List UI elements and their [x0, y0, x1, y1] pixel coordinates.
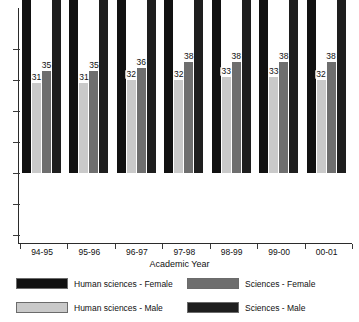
bar: 62	[289, 0, 298, 173]
x-axis-label: 97-98	[173, 247, 195, 257]
y-axis-tick	[13, 111, 20, 112]
bar-group: 67333862	[212, 0, 252, 173]
bar-group: 68323862	[164, 0, 204, 173]
legend-label: Sciences - Female	[245, 279, 315, 289]
x-axis-tick	[352, 244, 353, 249]
bar-value-label: 32	[315, 70, 326, 79]
bar: 38	[327, 62, 336, 173]
bar-group: 68323862	[307, 0, 347, 173]
bar: 36	[137, 68, 146, 173]
bar-value-label: 33	[268, 67, 279, 76]
bar: 68	[307, 0, 316, 173]
bar-value-label: 33	[220, 67, 231, 76]
y-axis-tick	[13, 235, 20, 236]
bar-group: 67333862	[259, 0, 299, 173]
y-axis-tick	[13, 80, 20, 81]
x-axis-tick	[257, 244, 258, 249]
plot-area: 6931356569313565683236646832386267333862…	[0, 0, 359, 252]
x-axis-label: 00-01	[316, 247, 338, 257]
bar-value-label: 35	[41, 61, 52, 70]
legend-label: Human sciences - Male	[74, 303, 163, 313]
y-axis-tick	[13, 142, 20, 143]
bar-group: 69313565	[22, 0, 62, 173]
x-axis-label: 95-96	[79, 247, 101, 257]
y-axis-tick	[13, 49, 20, 50]
legend-item-human-sciences-female: Human sciences - Female	[16, 278, 173, 289]
x-axis-label: 99-00	[268, 247, 290, 257]
bar: 65	[99, 0, 108, 173]
bar: 62	[337, 0, 346, 173]
bar: 62	[242, 0, 251, 173]
bar: 33	[269, 77, 278, 173]
bar-value-label: 32	[126, 70, 137, 79]
bar: 64	[147, 0, 156, 173]
bar: 69	[69, 0, 78, 173]
bar: 62	[194, 0, 203, 173]
legend-label: Sciences - Male	[245, 303, 305, 313]
bar: 68	[117, 0, 126, 173]
bar: 68	[164, 0, 173, 173]
legend-swatch	[187, 302, 239, 313]
bar: 35	[89, 71, 98, 173]
bar: 31	[79, 83, 88, 173]
bar: 67	[212, 0, 221, 173]
bar-value-label: 31	[78, 73, 89, 82]
bar: 32	[174, 80, 183, 173]
legend-swatch	[187, 278, 239, 289]
x-axis-label: 98-99	[221, 247, 243, 257]
bar: 65	[52, 0, 61, 173]
bar: 33	[222, 77, 231, 173]
legend-swatch	[16, 302, 68, 313]
bar: 69	[22, 0, 31, 173]
x-axis-title: Academic Year	[0, 259, 359, 270]
bar: 35	[42, 71, 51, 173]
x-axis-tick	[67, 244, 68, 249]
bar-value-label: 38	[230, 52, 241, 61]
bar-value-label: 35	[88, 61, 99, 70]
x-axis-tick	[305, 244, 306, 249]
legend-item-sciences-male: Sciences - Male	[187, 302, 305, 313]
bar-value-label: 38	[278, 52, 289, 61]
bar-value-label: 38	[325, 52, 336, 61]
bar: 38	[184, 62, 193, 173]
legend-label: Human sciences - Female	[74, 279, 173, 289]
bar-value-label: 32	[173, 70, 184, 79]
legend-item-sciences-female: Sciences - Female	[187, 278, 315, 289]
y-axis-line	[18, 8, 19, 244]
bar-value-label: 38	[183, 52, 194, 61]
x-axis-tick	[20, 244, 21, 249]
bar-group: 69313565	[69, 0, 109, 173]
y-axis-tick	[13, 204, 20, 205]
bar: 32	[127, 80, 136, 173]
bar: 32	[317, 80, 326, 173]
bar-value-label: 36	[136, 58, 147, 67]
bar-group: 68323664	[117, 0, 157, 173]
legend-item-human-sciences-male: Human sciences - Male	[16, 302, 163, 313]
x-axis-label: 96-97	[126, 247, 148, 257]
grouped-bar-chart: 6931356569313565683236646832386267333862…	[0, 0, 359, 322]
x-axis-label: 94-95	[31, 247, 53, 257]
y-axis-tick	[13, 173, 20, 174]
bar: 67	[259, 0, 268, 173]
legend-swatch	[16, 278, 68, 289]
bar: 31	[32, 83, 41, 173]
x-axis-tick	[115, 244, 116, 249]
bar: 38	[232, 62, 241, 173]
x-axis-tick	[210, 244, 211, 249]
bar: 38	[279, 62, 288, 173]
bar-value-label: 31	[31, 73, 42, 82]
x-axis-tick	[162, 244, 163, 249]
chart-legend: Human sciences - Female Human sciences -…	[0, 276, 359, 322]
